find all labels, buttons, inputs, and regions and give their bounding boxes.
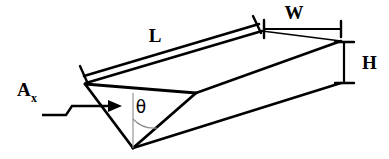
- height-label: H: [362, 52, 377, 73]
- v-trough-diagram: L W H θ A x: [0, 0, 389, 159]
- width-label: W: [285, 2, 304, 23]
- area-subscript: x: [31, 91, 37, 105]
- area-symbol: A: [17, 79, 31, 100]
- diagram-canvas: L W H θ A x: [0, 0, 389, 159]
- length-label: L: [149, 25, 162, 46]
- angle-label: θ: [136, 97, 146, 117]
- diagram-background: [0, 0, 389, 159]
